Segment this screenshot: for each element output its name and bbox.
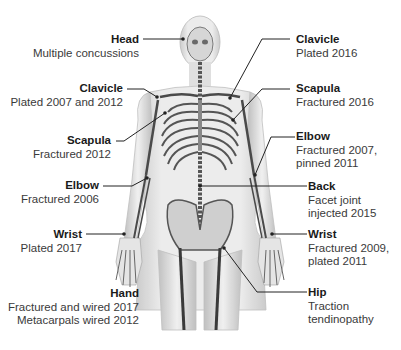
annotation-elbow-right: Elbow Fractured 2007, pinned 2011	[296, 130, 377, 171]
annotation-desc: Traction	[308, 300, 374, 314]
annotation-title: Clavicle	[10, 82, 123, 96]
annotation-desc: pinned 2011	[296, 157, 377, 171]
annotation-hand: Hand Fractured and wired 2017 Metacarpal…	[8, 287, 139, 328]
annotation-desc: Fractured 2016	[296, 96, 374, 110]
annotation-elbow-left: Elbow Fractured 2006	[21, 179, 99, 206]
annotation-title: Wrist	[308, 228, 389, 242]
annotation-desc: Fractured 2007,	[296, 144, 377, 158]
annotation-clavicle-right: Clavicle Plated 2016	[296, 33, 357, 60]
annotation-desc: Multiple concussions	[33, 47, 139, 61]
annotation-desc: Fractured 2006	[21, 193, 99, 207]
annotation-desc: injected 2015	[308, 207, 376, 221]
annotation-desc: tendinopathy	[308, 313, 374, 327]
annotation-scapula-right: Scapula Fractured 2016	[296, 82, 374, 109]
annotation-desc: Plated 2017	[21, 242, 82, 256]
annotation-scapula-left: Scapula Fractured 2012	[33, 134, 111, 161]
annotation-title: Wrist	[21, 228, 82, 242]
annotation-title: Elbow	[296, 130, 377, 144]
annotation-clavicle-left: Clavicle Plated 2007 and 2012	[10, 82, 123, 109]
annotation-title: Elbow	[21, 179, 99, 193]
annotation-title: Scapula	[296, 82, 374, 96]
annotation-title: Head	[33, 33, 139, 47]
annotation-desc: Fractured 2012	[33, 148, 111, 162]
annotation-title: Back	[308, 180, 376, 194]
annotation-desc: plated 2011	[308, 255, 389, 269]
annotation-title: Hip	[308, 286, 374, 300]
annotation-title: Scapula	[33, 134, 111, 148]
annotation-title: Hand	[8, 287, 139, 301]
annotation-desc: Facet joint	[308, 194, 376, 208]
annotation-wrist-left: Wrist Plated 2017	[21, 228, 82, 255]
annotation-hip: Hip Traction tendinopathy	[308, 286, 374, 327]
annotation-desc: Plated 2016	[296, 47, 357, 61]
annotation-desc: Metacarpals wired 2012	[8, 314, 139, 328]
annotation-back: Back Facet joint injected 2015	[308, 180, 376, 221]
annotation-desc: Fractured 2009,	[308, 242, 389, 256]
annotation-head: Head Multiple concussions	[33, 33, 139, 60]
annotation-desc: Fractured and wired 2017	[8, 301, 139, 315]
annotation-title: Clavicle	[296, 33, 357, 47]
annotation-wrist-right: Wrist Fractured 2009, plated 2011	[308, 228, 389, 269]
annotation-desc: Plated 2007 and 2012	[10, 96, 123, 110]
